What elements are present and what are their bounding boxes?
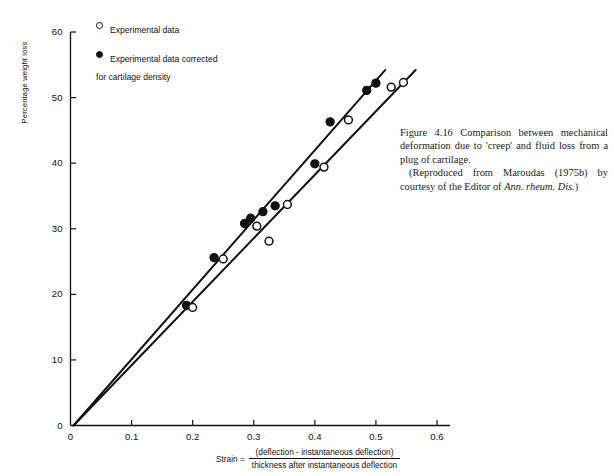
formula-lead: Strain = [216, 454, 249, 464]
y-tick-label: 40 [33, 157, 63, 168]
data-point-corrected [247, 214, 255, 222]
fit-lines [74, 70, 416, 425]
caption-line-1: Figure 4.16 Comparison between mechanica… [400, 126, 608, 166]
data-point-experimental [265, 237, 273, 245]
y-tick-label: 10 [33, 354, 63, 365]
experimental-fit [74, 70, 416, 425]
fraction-denominator: thickness after instantaneous deflection [249, 459, 400, 470]
y-axis-title: Percentage weight loss [20, 13, 29, 153]
y-tick-label: 20 [33, 288, 63, 299]
data-point-experimental [283, 201, 291, 209]
data-point-corrected [326, 118, 334, 126]
x-tick-label: 0.6 [422, 431, 452, 442]
x-axis-title: Strain = (deflection - instantaneous def… [216, 447, 400, 470]
x-tick-label: 0.2 [178, 431, 208, 442]
x-tick-label: 0.1 [117, 431, 147, 442]
y-tick-label: 50 [33, 92, 63, 103]
fraction-numerator: (deflection - instantaneous deflection) [249, 447, 400, 459]
data-point-experimental [320, 163, 328, 171]
figure-4-16: Percentage weight loss 0102030405060 00.… [0, 0, 614, 476]
data-point-corrected [210, 254, 218, 262]
y-tick-label: 0 [33, 420, 63, 431]
caption-source-post: ) [575, 181, 578, 192]
data-point-experimental [189, 304, 197, 312]
figure-caption: Figure 4.16 Comparison between mechanica… [400, 126, 608, 193]
legend-label: Experimental data [110, 25, 179, 35]
x-tick-label: 0.5 [361, 431, 391, 442]
filled-circle-icon [96, 51, 103, 58]
legend-item: Experimental data [96, 19, 217, 37]
x-tick-label: 0 [56, 431, 86, 442]
data-point-experimental [400, 79, 408, 87]
data-point-corrected [311, 160, 319, 168]
data-point-experimental [387, 83, 395, 91]
caption-line-2: (Reproduced from Maroudas (1975b) by cou… [400, 166, 608, 193]
open-circle-icon [96, 22, 103, 29]
data-point-experimental [345, 116, 353, 124]
strain-fraction: (deflection - instantaneous deflection) … [249, 447, 400, 470]
corrected-fit [74, 70, 386, 425]
data-point-experimental [219, 255, 227, 263]
legend-label: Experimental data corrected for cartilag… [96, 54, 217, 82]
x-tick-label: 0.3 [239, 431, 269, 442]
y-tick-label: 30 [33, 223, 63, 234]
x-tick-label: 0.4 [300, 431, 330, 442]
data-point-corrected [259, 208, 267, 216]
data-point-experimental [253, 222, 261, 230]
y-tick-label: 60 [33, 26, 63, 37]
legend-item: Experimental data corrected for cartilag… [96, 48, 217, 84]
plot-canvas [0, 0, 614, 476]
data-point-corrected [363, 86, 371, 94]
legend: Experimental dataExperimental data corre… [96, 19, 217, 95]
data-point-corrected [271, 202, 279, 210]
data-point-corrected [372, 79, 380, 87]
caption-journal: Ann. rheum. Dis. [504, 181, 575, 192]
